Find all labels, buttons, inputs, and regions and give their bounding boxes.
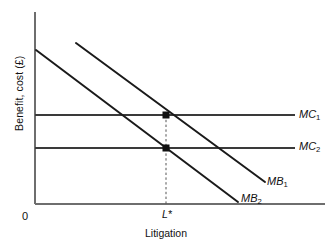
mb1-line: [76, 43, 265, 182]
economics-line-chart: Benefit, cost (£) Litigation 0 L* MC1 MC…: [0, 0, 336, 247]
lstar-tick-label: L*: [155, 209, 179, 220]
mb2-label-base: MB: [241, 192, 258, 204]
origin-label: 0: [22, 211, 28, 222]
mb2-label: MB2: [241, 193, 262, 204]
y-axis-label: Benefit, cost (£): [14, 43, 25, 143]
mb2-line: [36, 50, 238, 202]
x-axis-label: Litigation: [130, 228, 202, 239]
mc2-label: MC2: [299, 141, 320, 152]
equilibrium-point-upper: [163, 112, 170, 119]
mc1-label: MC1: [299, 109, 320, 120]
mc1-label-subscript: 1: [316, 113, 320, 122]
mb1-label: MB1: [267, 176, 288, 187]
mc2-label-base: MC: [299, 140, 316, 152]
equilibrium-point-lower: [163, 145, 170, 152]
mb1-label-base: MB: [267, 175, 284, 187]
mb1-label-subscript: 1: [284, 180, 288, 189]
mc2-label-subscript: 2: [316, 145, 320, 154]
mb2-label-subscript: 2: [258, 197, 262, 206]
mc1-label-base: MC: [299, 108, 316, 120]
